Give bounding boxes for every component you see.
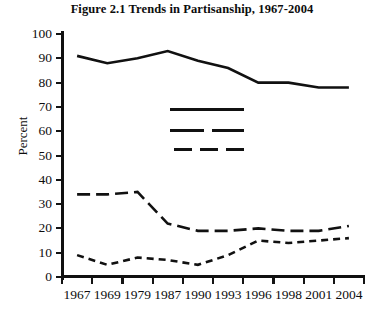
y-tick-label: 80 — [8, 76, 52, 90]
y-tick-label: 30 — [8, 197, 52, 211]
chart-legend — [170, 108, 250, 154]
chart-figure: Figure 2.1 Trends in Partisanship, 1967-… — [0, 0, 384, 312]
y-tick-label: 10 — [8, 246, 52, 260]
y-tick-mark — [56, 57, 62, 59]
legend-item — [170, 108, 250, 112]
y-tick-mark — [56, 82, 62, 84]
x-tick-mark — [61, 277, 63, 284]
y-tick-mark — [56, 203, 62, 205]
x-tick-mark — [272, 277, 274, 284]
x-tick-mark — [91, 277, 93, 284]
y-tick-mark — [56, 252, 62, 254]
x-tick-mark — [182, 277, 184, 284]
short-dash-line-swatch — [174, 148, 244, 151]
series-line-long-dash — [77, 192, 349, 231]
x-tick-mark — [152, 277, 154, 284]
x-tick-mark — [333, 277, 335, 284]
y-tick-label: 60 — [8, 124, 52, 138]
y-tick-mark — [56, 155, 62, 157]
x-tick-mark — [363, 277, 365, 284]
y-tick-label: 50 — [8, 149, 52, 163]
y-tick-mark — [56, 33, 62, 35]
y-tick-mark — [56, 106, 62, 108]
y-tick-mark — [56, 227, 62, 229]
y-tick-mark — [56, 130, 62, 132]
long-dash-line-swatch — [170, 129, 244, 132]
legend-item — [170, 148, 250, 152]
x-tick-mark — [212, 277, 214, 284]
x-tick-mark — [121, 277, 123, 284]
x-tick-label: 2004 — [327, 288, 371, 302]
y-tick-label: 70 — [8, 100, 52, 114]
legend-item — [170, 129, 250, 133]
y-tick-label: 90 — [8, 51, 52, 65]
page-title: Figure 2.1 Trends in Partisanship, 1967-… — [0, 2, 384, 17]
y-tick-label: 20 — [8, 221, 52, 235]
y-tick-label: 40 — [8, 173, 52, 187]
y-tick-label: 0 — [8, 270, 52, 284]
series-line-short-dash — [77, 238, 349, 265]
x-tick-mark — [303, 277, 305, 284]
x-tick-mark — [242, 277, 244, 284]
series-line-solid — [77, 51, 349, 87]
y-tick-mark — [56, 179, 62, 181]
y-tick-label: 100 — [8, 27, 52, 41]
solid-line-swatch — [170, 108, 244, 111]
